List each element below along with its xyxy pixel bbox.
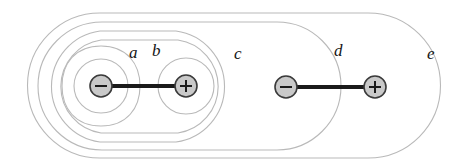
region-label-e: e: [427, 45, 435, 62]
region-label-d: d: [334, 42, 343, 59]
region-label-c: c: [234, 45, 242, 62]
charge-positive-right: [364, 76, 386, 98]
charge-positive-left: [175, 75, 197, 97]
dipole-right: [275, 76, 386, 98]
charge-negative-left: [90, 75, 112, 97]
dipole-left: [90, 75, 197, 97]
field-contour-diagram: [0, 0, 462, 165]
region-label-b: b: [152, 42, 161, 59]
region-label-a: a: [129, 44, 138, 61]
physics-figure: a b c d e: [0, 0, 462, 165]
charge-negative-right: [275, 76, 297, 98]
